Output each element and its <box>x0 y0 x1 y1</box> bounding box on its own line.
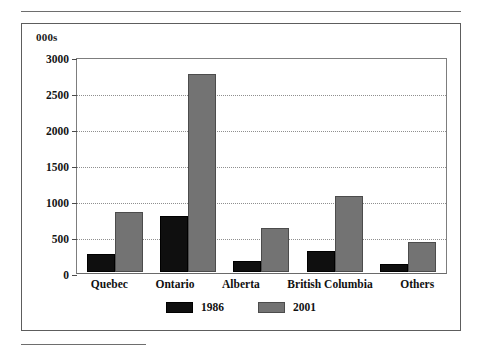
legend-item-2001[interactable]: 2001 <box>258 301 316 313</box>
bar-group <box>87 60 143 272</box>
x-axis-labels: QuebecOntarioAlbertaBritish ColumbiaOthe… <box>77 275 448 295</box>
page-rule-top <box>21 11 461 12</box>
y-axis-tick <box>72 59 77 60</box>
legend-swatch-2001 <box>258 302 285 313</box>
y-axis-tick-label: 1000 <box>46 197 69 209</box>
figure-frame: 000s 050010001500200025003000 QuebecOnta… <box>21 23 461 331</box>
bar-ontario-2001[interactable] <box>188 74 216 272</box>
bar-chart: 000s 050010001500200025003000 QuebecOnta… <box>22 24 460 330</box>
legend-item-1986[interactable]: 1986 <box>166 301 224 313</box>
y-axis-tick-label: 0 <box>63 269 69 281</box>
plot-area: 050010001500200025003000 <box>76 58 447 274</box>
x-axis-label-alberta: Alberta <box>222 275 260 290</box>
bar-british-columbia-1986[interactable] <box>307 251 335 272</box>
x-axis-label-others: Others <box>400 275 434 290</box>
bar-others-1986[interactable] <box>380 264 408 272</box>
bar-group <box>233 60 289 272</box>
y-axis-tick <box>72 131 77 132</box>
bar-ontario-1986[interactable] <box>160 216 188 272</box>
bar-others-2001[interactable] <box>408 242 436 272</box>
legend-label-1986: 1986 <box>201 301 224 313</box>
x-axis-label-quebec: Quebec <box>91 275 128 290</box>
x-axis-label-british-columbia: British Columbia <box>287 275 372 290</box>
bar-alberta-2001[interactable] <box>261 228 289 272</box>
y-axis-tick-label: 1500 <box>46 161 69 173</box>
bar-groups-layer <box>78 60 445 272</box>
legend-label-2001: 2001 <box>293 301 316 313</box>
bar-quebec-1986[interactable] <box>87 254 115 272</box>
y-axis-tick-label: 2500 <box>46 89 69 101</box>
x-axis-label-ontario: Ontario <box>155 275 194 290</box>
bar-group <box>380 60 436 272</box>
bar-quebec-2001[interactable] <box>115 212 143 272</box>
y-axis-tick-label: 3000 <box>46 53 69 65</box>
page-rule-bottom <box>21 344 146 345</box>
bar-british-columbia-2001[interactable] <box>335 196 363 272</box>
y-axis-tick-label: 500 <box>52 233 69 245</box>
y-axis-tick <box>72 203 77 204</box>
bar-group <box>160 60 216 272</box>
bar-alberta-1986[interactable] <box>233 261 261 272</box>
y-axis-unit-label: 000s <box>36 31 58 43</box>
bar-group <box>307 60 363 272</box>
y-axis-tick <box>72 239 77 240</box>
chart-legend: 19862001 <box>22 301 460 313</box>
y-axis-tick <box>72 167 77 168</box>
y-axis-tick-label: 2000 <box>46 125 69 137</box>
y-axis-tick <box>72 95 77 96</box>
legend-swatch-1986 <box>166 302 193 313</box>
